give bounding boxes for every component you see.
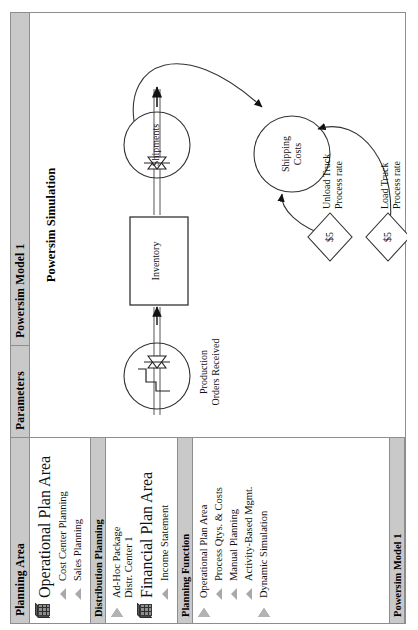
label-unload-truck-value: $5 <box>324 217 336 257</box>
header-cell-powersim-model-1[interactable]: Powersim Model 1 <box>11 13 30 345</box>
nav-item-income-statement[interactable]: Income Statement <box>158 438 173 623</box>
powersim-diagram: Inventory Production Orders Received Shi… <box>30 13 405 437</box>
window-body: Operational Plan Area Cost Center Planni… <box>30 13 405 623</box>
label-load-truck-process-rate: Load Truck Process rate <box>379 105 402 209</box>
nav-item-activity-based-mgmt[interactable]: Activity-Based Mgmt. <box>242 438 257 623</box>
leaf-triangle-icon <box>213 586 226 601</box>
nav-item-label: Income Statement <box>159 505 171 581</box>
label-load-truck-value: $5 <box>382 217 394 257</box>
diagram-canvas[interactable]: Powersim Simulation <box>30 13 405 437</box>
cube-icon <box>35 602 51 618</box>
nav-group-planning-function: Operational Plan Area Process Qtys. & Co… <box>193 438 276 623</box>
nav-item-label: Cost Center Planning <box>57 491 69 581</box>
leaf-triangle-icon <box>72 586 85 601</box>
nav-item-label: Process Qtys. & Costs <box>213 487 225 581</box>
nav-group-planning-area: Operational Plan Area Cost Center Planni… <box>30 438 90 623</box>
window-frame: Planning Area Parameters Powersim Model … <box>10 12 406 624</box>
nav-group-distribution-planning: Ad-Hoc Package Distr. Center 1 Financial… <box>106 438 177 623</box>
navigation-panel: Operational Plan Area Cost Center Planni… <box>30 437 405 623</box>
nav-item-ad-hoc-package-distr-center-1[interactable]: Ad-Hoc Package Distr. Center 1 <box>110 438 136 623</box>
nav-item-cost-center-planning[interactable]: Cost Center Planning <box>56 438 71 623</box>
header-cell-planning-area[interactable]: Planning Area <box>11 437 30 623</box>
nav-selected-bar-powersim-model-1[interactable]: Powersim Model 1 <box>389 438 405 623</box>
nav-item-financial-plan-area[interactable]: Financial Plan Area <box>136 438 158 623</box>
nav-item-dynamic-simulation[interactable]: Dynamic Simulation <box>257 438 272 623</box>
application-page: Planning Area Parameters Powersim Model … <box>0 0 418 630</box>
nav-item-operational-plan-area[interactable]: Operational Plan Area <box>34 438 56 623</box>
play-triangle-icon <box>198 603 211 618</box>
nav-section-header-distribution-planning[interactable]: Distribution Planning <box>90 438 106 623</box>
nav-item-sales-planning[interactable]: Sales Planning <box>71 438 86 623</box>
nav-item-label: Financial Plan Area <box>138 472 156 598</box>
nav-section-header-planning-function[interactable]: Planning Function <box>177 438 193 623</box>
label-inventory: Inventory <box>150 217 162 305</box>
nav-item-process-qtys-and-costs[interactable]: Process Qtys. & Costs <box>212 438 227 623</box>
nav-item-label: Sales Planning <box>72 519 84 581</box>
nav-item-label: Dynamic Simulation <box>258 511 270 598</box>
nav-item-label: Operational Plan Area <box>36 456 54 598</box>
label-shipping-costs: Shipping Costs <box>280 117 303 191</box>
leaf-triangle-icon <box>57 586 70 601</box>
source-production-orders-circle <box>124 343 190 409</box>
screenshot-stage: Planning Area Parameters Powersim Model … <box>0 0 418 630</box>
header-cell-parameters[interactable]: Parameters <box>11 345 30 437</box>
play-triangle-icon <box>111 603 124 618</box>
play-triangle-icon <box>258 603 271 618</box>
cube-icon <box>137 602 153 618</box>
label-shipments: Shipments <box>150 108 162 182</box>
leaf-triangle-icon <box>228 586 241 601</box>
label-production-orders-received: Production Orders Received <box>198 313 221 431</box>
label-unload-truck-process-rate: Unload Truck Process rate <box>321 105 344 209</box>
nav-item-operational-plan-area-function[interactable]: Operational Plan Area <box>197 438 212 623</box>
nav-item-label: Operational Plan Area <box>198 505 210 598</box>
nav-item-label: Ad-Hoc Package Distr. Center 1 <box>111 527 135 598</box>
nav-item-label: Activity-Based Mgmt. <box>243 487 255 582</box>
nav-item-manual-planning[interactable]: Manual Planning <box>227 438 242 623</box>
leaf-triangle-icon <box>243 586 256 601</box>
header-bar: Planning Area Parameters Powersim Model … <box>11 13 30 623</box>
nav-item-label: Manual Planning <box>228 509 240 581</box>
leaf-triangle-icon <box>159 586 172 601</box>
